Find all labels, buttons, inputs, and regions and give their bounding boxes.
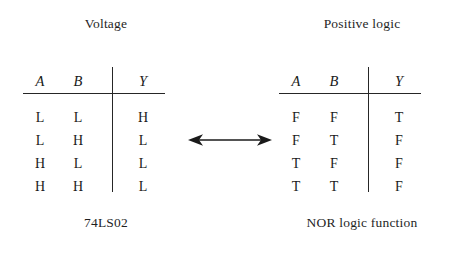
table-row: L [130, 180, 156, 194]
truth-table-equivalence-figure: Voltage A B Y L L H L H L H L L H H L 74 [0, 0, 458, 259]
table-row: L [130, 157, 156, 171]
column-header-a: A [283, 74, 309, 88]
table-row: F [321, 157, 347, 171]
header-separator-rule [23, 93, 165, 94]
table-row: T [386, 111, 412, 125]
positive-logic-table-title: Positive logic [262, 16, 458, 32]
header-separator-rule [279, 93, 421, 94]
table-row: L [65, 111, 91, 125]
table-row: H [27, 157, 53, 171]
table-row: H [130, 111, 156, 125]
positive-logic-table-block: Positive logic A B Y F F T F T F T F F T… [262, 0, 458, 259]
table-row: L [27, 111, 53, 125]
positive-logic-truth-table: A B Y F F T F T F T F F T T F [272, 62, 452, 197]
column-header-y: Y [130, 74, 156, 88]
column-header-a: A [27, 74, 53, 88]
table-row: T [321, 180, 347, 194]
output-separator-rule [368, 67, 369, 192]
table-row: F [386, 134, 412, 148]
column-header-y: Y [386, 74, 412, 88]
table-row: H [27, 180, 53, 194]
positive-logic-function-label: NOR logic function [262, 215, 458, 231]
table-row: F [386, 157, 412, 171]
table-row: T [283, 157, 309, 171]
table-row: L [130, 134, 156, 148]
output-separator-rule [112, 67, 113, 192]
voltage-table-device-label: 74LS02 [6, 215, 206, 231]
table-row: T [321, 134, 347, 148]
table-row: F [283, 134, 309, 148]
voltage-table-title: Voltage [6, 16, 206, 32]
table-row: L [65, 157, 91, 171]
table-row: F [386, 180, 412, 194]
table-row: L [27, 134, 53, 148]
voltage-truth-table: A B Y L L H L H L H L L H H L [16, 62, 196, 197]
table-row: F [283, 111, 309, 125]
table-row: F [321, 111, 347, 125]
voltage-table-block: Voltage A B Y L L H L H L H L L H H L 74 [6, 0, 206, 259]
table-row: H [65, 180, 91, 194]
table-row: H [65, 134, 91, 148]
table-row: T [283, 180, 309, 194]
column-header-b: B [321, 74, 347, 88]
column-header-b: B [65, 74, 91, 88]
double-headed-arrow-icon [186, 130, 274, 150]
